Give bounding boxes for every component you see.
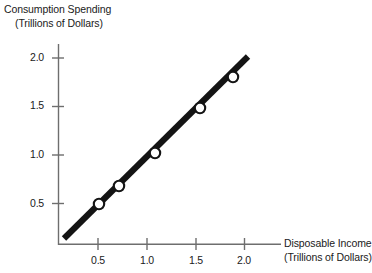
data-point-marker: [228, 72, 238, 82]
data-point-marker: [114, 181, 124, 191]
data-point-marker: [94, 199, 104, 209]
data-point-marker: [150, 148, 160, 158]
data-point-marker: [195, 103, 205, 113]
